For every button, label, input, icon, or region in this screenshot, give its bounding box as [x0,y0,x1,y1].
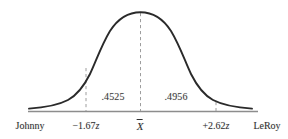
lower-z-symbol: z [96,120,100,131]
area-label-left: .4525 [102,91,125,102]
upper-z-symbol: z [226,120,230,131]
axis-label-leroy: LeRoy [253,120,280,131]
axis-label-lower-z: −1.67z [72,120,99,131]
normal-curve-plot [0,0,288,139]
axis-label-mean: X [137,119,144,132]
axis-label-johnny: Johnny [16,120,45,131]
normal-curve-figure: .4525 .4956 Johnny −1.67z X +2.62z LeRoy [0,0,288,139]
upper-z-value: +2.62 [202,120,225,131]
area-label-right: .4956 [165,91,188,102]
lower-z-value: −1.67 [72,120,95,131]
axis-label-upper-z: +2.62z [202,120,229,131]
x-bar-symbol: X [137,119,144,132]
